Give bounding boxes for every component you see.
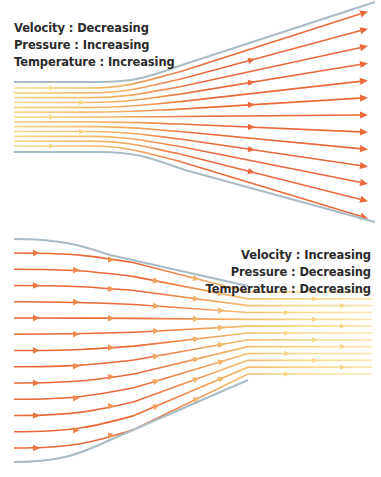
flow-arrowhead-icon bbox=[217, 357, 226, 365]
duct-wall-bottom bbox=[14, 152, 375, 222]
flow-arrowhead-icon bbox=[49, 114, 55, 119]
flow-arrowhead-icon bbox=[73, 299, 80, 305]
streamline bbox=[14, 367, 372, 432]
flow-arrowhead-icon bbox=[217, 374, 226, 383]
flow-arrowhead-icon bbox=[33, 315, 40, 321]
diffuser-diagram: Velocity : Decreasing Pressure : Increas… bbox=[0, 0, 381, 230]
flow-arrowhead-icon bbox=[79, 129, 85, 134]
flow-arrowhead-icon bbox=[108, 257, 115, 263]
nozzle-wall-bottom bbox=[14, 380, 248, 462]
flow-arrowhead-icon bbox=[153, 328, 160, 335]
flow-arrowhead-icon bbox=[108, 315, 115, 321]
streamline bbox=[14, 360, 372, 415]
nozzle-pressure-label: Pressure : Decreasing bbox=[205, 264, 371, 281]
flow-arrowhead-icon bbox=[108, 344, 115, 350]
flow-arrowhead-icon bbox=[218, 324, 225, 331]
diffuser-temperature-label: Temperature : Increasing bbox=[14, 54, 175, 71]
flow-arrowhead-icon bbox=[359, 42, 368, 51]
flow-arrowhead-icon bbox=[360, 77, 369, 85]
flow-arrowhead-icon bbox=[359, 196, 369, 205]
streamline bbox=[14, 333, 372, 351]
flow-arrowhead-icon bbox=[340, 344, 346, 349]
flow-arrowhead-icon bbox=[360, 60, 369, 68]
flow-arrowhead-icon bbox=[108, 403, 115, 409]
nozzle-velocity-label: Velocity : Increasing bbox=[205, 247, 371, 264]
flow-arrowhead-icon bbox=[248, 101, 255, 108]
diffuser-velocity-label: Velocity : Decreasing bbox=[14, 20, 175, 37]
flow-arrowhead-icon bbox=[79, 100, 85, 105]
streamline bbox=[14, 302, 372, 313]
flow-arrowhead-icon bbox=[359, 25, 369, 34]
flow-arrowhead-icon bbox=[33, 445, 40, 451]
streamline bbox=[14, 374, 372, 448]
diffuser-pressure-label: Pressure : Increasing bbox=[14, 37, 175, 54]
flow-arrowhead-icon bbox=[360, 162, 369, 170]
flow-arrowhead-icon bbox=[73, 267, 80, 273]
flow-arrowhead-icon bbox=[359, 179, 368, 188]
flow-arrowhead-icon bbox=[49, 85, 55, 90]
flow-arrowhead-icon bbox=[218, 307, 225, 314]
nozzle-temperature-label: Temperature : Decreasing bbox=[205, 281, 371, 298]
flow-arrowhead-icon bbox=[340, 323, 346, 328]
flow-arrowhead-icon bbox=[312, 358, 318, 363]
flow-arrowhead-icon bbox=[33, 250, 40, 256]
flow-arrowhead-icon bbox=[152, 402, 161, 411]
flow-arrowhead-icon bbox=[340, 364, 346, 369]
flow-arrowhead-icon bbox=[33, 412, 40, 418]
diffuser-labels: Velocity : Decreasing Pressure : Increas… bbox=[14, 20, 175, 71]
flow-arrowhead-icon bbox=[108, 286, 115, 292]
flow-arrowhead-icon bbox=[359, 8, 369, 17]
flow-arrowhead-icon bbox=[248, 124, 255, 131]
flow-arrowhead-icon bbox=[360, 128, 368, 136]
flow-arrowhead-icon bbox=[33, 282, 40, 288]
flow-arrowhead-icon bbox=[152, 377, 161, 385]
flow-arrowhead-icon bbox=[193, 295, 201, 302]
streamline bbox=[14, 115, 360, 117]
flow-arrowhead-icon bbox=[360, 94, 368, 102]
flow-arrowhead-icon bbox=[360, 145, 369, 153]
flow-arrowhead-icon bbox=[312, 337, 318, 342]
flow-arrowhead-icon bbox=[360, 111, 368, 118]
flow-arrowhead-icon bbox=[33, 347, 40, 353]
flow-arrowhead-icon bbox=[33, 380, 40, 386]
flow-arrowhead-icon bbox=[193, 316, 200, 322]
flow-arrowhead-icon bbox=[284, 351, 290, 356]
flow-arrowhead-icon bbox=[284, 371, 290, 376]
flow-arrowhead-icon bbox=[284, 310, 290, 315]
flow-arrowhead-icon bbox=[192, 375, 201, 383]
flow-arrowhead-icon bbox=[73, 331, 80, 337]
flow-arrowhead-icon bbox=[49, 143, 55, 148]
flow-arrowhead-icon bbox=[284, 330, 290, 335]
flow-arrowhead-icon bbox=[153, 303, 160, 310]
flow-arrowhead-icon bbox=[108, 374, 115, 380]
flow-arrowhead-icon bbox=[73, 363, 80, 369]
flow-arrowhead-icon bbox=[73, 395, 80, 401]
flow-arrowhead-icon bbox=[340, 303, 346, 308]
nozzle-labels: Velocity : Increasing Pressure : Decreas… bbox=[205, 247, 371, 298]
flow-arrowhead-icon bbox=[193, 335, 201, 342]
flow-arrowhead-icon bbox=[312, 317, 318, 322]
nozzle-diagram: Velocity : Increasing Pressure : Decreas… bbox=[0, 230, 381, 477]
